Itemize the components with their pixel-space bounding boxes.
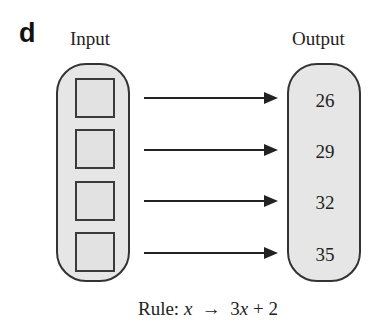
input-box-3[interactable] bbox=[75, 181, 115, 221]
output-value-1: 26 bbox=[287, 90, 363, 112]
output-header: Output bbox=[292, 28, 345, 50]
rule-prefix: Rule: bbox=[138, 298, 184, 319]
output-value-3: 32 bbox=[287, 192, 363, 214]
input-box-2[interactable] bbox=[75, 129, 115, 169]
rule-coef: 3 bbox=[230, 298, 240, 319]
input-box-1[interactable] bbox=[75, 78, 115, 118]
arrow-right-icon bbox=[144, 97, 278, 99]
rule-text: Rule: x → 3x + 2 bbox=[0, 298, 386, 320]
input-header: Input bbox=[70, 28, 110, 50]
rule-arrow: → bbox=[202, 298, 221, 319]
rule-suffix: + 2 bbox=[248, 298, 278, 319]
output-value-4: 35 bbox=[287, 244, 363, 266]
arrow-right-icon bbox=[144, 252, 278, 254]
input-box-4[interactable] bbox=[75, 232, 115, 272]
arrow-right-icon bbox=[144, 200, 278, 202]
arrow-right-icon bbox=[144, 149, 278, 151]
panel-label: d bbox=[19, 18, 36, 49]
output-value-2: 29 bbox=[287, 141, 363, 163]
rule-var: x bbox=[184, 298, 192, 319]
